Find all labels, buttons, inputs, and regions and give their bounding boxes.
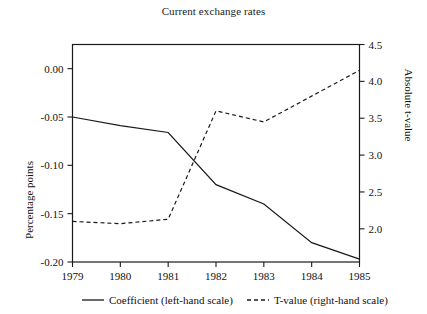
x-tick-label: 1985 <box>349 270 372 282</box>
legend-label-coefficient: Coefficient (left-hand scale) <box>109 294 233 307</box>
x-tick-label: 1981 <box>157 270 179 282</box>
y-axis-left-title: Percentage points <box>23 161 35 239</box>
x-tick-label: 1980 <box>109 270 132 282</box>
x-tick-label: 1979 <box>62 270 85 282</box>
chart-legend: Coefficient (left-hand scale) T-value (r… <box>82 294 388 307</box>
chart-container: Current exchange rates 0.00-0.05-0.10-0.… <box>0 0 427 314</box>
y-axis-left-labels: 0.00-0.05-0.10-0.15-0.20 <box>41 63 64 268</box>
y-tick-label-right: 4.5 <box>369 39 383 51</box>
series-line-tvalue <box>73 70 360 223</box>
y-tick-label-right: 3.5 <box>369 112 383 124</box>
x-tick-label: 1983 <box>253 270 276 282</box>
y-axis-left-ticks <box>68 69 73 262</box>
x-tick-label: 1984 <box>301 270 324 282</box>
plot-frame <box>73 45 360 263</box>
y-tick-label-left: -0.15 <box>41 208 64 220</box>
series-line-coefficient <box>73 117 360 259</box>
legend-label-tvalue: T-value (right-hand scale) <box>274 294 388 307</box>
x-tick-label: 1982 <box>205 270 227 282</box>
y-tick-label-right: 2.0 <box>369 223 383 235</box>
chart-plot-area: 0.00-0.05-0.10-0.15-0.20 4.54.03.53.02.5… <box>0 0 427 314</box>
y-tick-label-right: 4.0 <box>369 75 383 87</box>
x-axis-ticks <box>73 262 360 267</box>
y-tick-label-left: 0.00 <box>44 63 64 75</box>
y-tick-label-left: -0.20 <box>41 256 64 268</box>
y-tick-label-right: 2.5 <box>369 186 383 198</box>
y-tick-label-right: 3.0 <box>369 149 383 161</box>
y-tick-label-left: -0.10 <box>41 159 64 171</box>
y-axis-right-labels: 4.54.03.53.02.52.0 <box>369 39 383 235</box>
y-axis-right-title: Absolute t-value <box>403 68 415 141</box>
x-axis-labels: 1979198019811982198319841985 <box>62 270 372 282</box>
y-tick-label-left: -0.05 <box>41 111 64 123</box>
y-axis-right-ticks <box>360 45 365 229</box>
